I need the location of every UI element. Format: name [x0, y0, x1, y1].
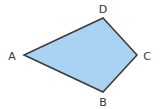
vertex-label-c: C [143, 50, 151, 63]
vertex-label-b: B [99, 96, 107, 109]
vertex-label-d: D [99, 3, 107, 16]
quadrilateral-diagram: A B C D [0, 0, 161, 109]
vertex-label-a: A [8, 50, 16, 63]
quadrilateral-abcd [24, 18, 137, 92]
